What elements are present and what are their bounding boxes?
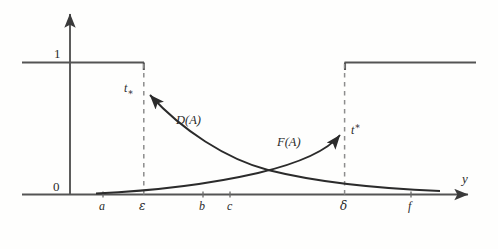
- figure-canvas: 1 0 y a ε b c δ f D(A) F(A) t∗ t∗: [0, 0, 498, 249]
- tick-label-b: b: [199, 200, 205, 212]
- tick-label-f: f: [408, 200, 411, 212]
- y-axis-label-one: 1: [54, 47, 61, 60]
- diagram-svg: [0, 0, 498, 249]
- curve-label-DA: D(A): [176, 114, 201, 127]
- star-glyph-sup: ∗: [354, 121, 360, 131]
- y-axis-label-zero: 0: [53, 180, 60, 193]
- label-t-star-superscript: t∗: [351, 122, 360, 136]
- x-axis-label-y: y: [462, 172, 468, 185]
- star-glyph-sub: ∗: [127, 87, 133, 97]
- curve-label-FA: F(A): [277, 136, 301, 149]
- tick-label-a: a: [99, 200, 105, 212]
- tick-label-c: c: [227, 200, 232, 212]
- curve-increasing-FA: [96, 135, 340, 194]
- tick-label-delta: δ: [340, 200, 347, 212]
- tick-label-epsilon: ε: [139, 200, 145, 212]
- label-t-star-subscript: t∗: [124, 82, 133, 97]
